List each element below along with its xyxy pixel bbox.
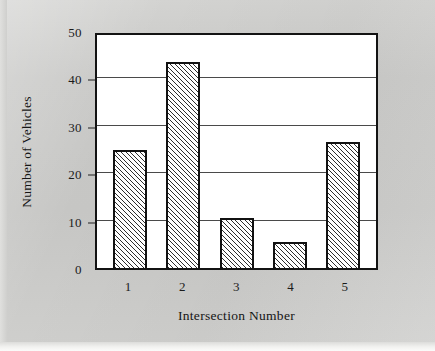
bar-slot <box>156 35 209 268</box>
x-tick-label: 3 <box>209 279 263 295</box>
x-tick-labels: 12345 <box>95 279 378 295</box>
y-tick-mark <box>88 222 95 223</box>
x-tick-label: 2 <box>155 279 209 295</box>
y-tick-label: 30 <box>68 120 82 136</box>
x-tick-label: 4 <box>264 279 318 295</box>
x-tick-label: 1 <box>101 279 155 295</box>
y-axis-title: Number of Vehicles <box>19 96 35 207</box>
bar <box>273 242 307 268</box>
x-axis: 12345 Intersection Number <box>95 270 378 330</box>
y-tick-label: 50 <box>68 25 82 41</box>
y-tick-label: 20 <box>68 167 82 183</box>
bar-slot <box>317 35 370 268</box>
bar <box>220 218 254 268</box>
bar <box>326 142 360 268</box>
bar-slot <box>263 35 316 268</box>
bar-series <box>97 35 376 268</box>
bar-slot <box>210 35 263 268</box>
y-axis: Number of Vehicles 01020304050 <box>0 0 95 351</box>
y-tick-mark <box>88 80 95 81</box>
y-tick-mark <box>88 127 95 128</box>
plot-area <box>95 33 378 270</box>
y-tick-label: 40 <box>68 72 82 88</box>
bar <box>166 62 200 268</box>
bar-slot <box>103 35 156 268</box>
y-tick-label: 0 <box>75 262 82 278</box>
y-tick-mark <box>88 175 95 176</box>
bar <box>113 150 147 269</box>
x-tick-label: 5 <box>318 279 372 295</box>
x-axis-title: Intersection Number <box>95 308 378 324</box>
y-tick-label: 10 <box>68 215 82 231</box>
bar-chart-figure: Number of Vehicles 01020304050 12345 Int… <box>0 0 435 351</box>
